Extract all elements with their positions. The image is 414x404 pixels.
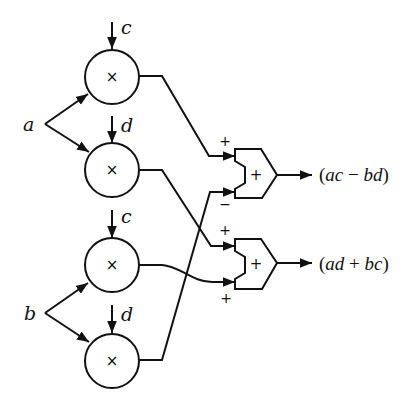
wire-b-to-m4: [45, 313, 89, 342]
multiply-symbol: ×: [106, 352, 119, 370]
wire-b-to-m3: [45, 283, 88, 313]
wire-a-to-m1: [45, 94, 88, 124]
input-sign-plus: +: [219, 222, 231, 238]
multiplier-bc: c ×: [85, 205, 139, 292]
multiplier-ac: c ×: [85, 16, 139, 104]
wire-bc-to-adder2: [139, 265, 235, 282]
side-input-d-label: d: [121, 114, 133, 136]
complex-multiplier-diagram: a b c × d × c × d ×: [0, 0, 414, 404]
wire-bd-to-adder1: [139, 192, 235, 360]
adder-1: + + − (ac − bd): [219, 133, 389, 212]
side-input-c-label: c: [121, 16, 132, 38]
multiplier-ad: d ×: [85, 114, 139, 197]
multiplier-bd: d ×: [85, 303, 139, 388]
output-label-ad-plus-bc: (ad + bc): [319, 253, 389, 275]
multiply-symbol: ×: [106, 161, 119, 179]
input-b: b: [24, 283, 89, 342]
input-b-label: b: [24, 302, 36, 324]
input-sign-plus: +: [220, 290, 232, 306]
output-label-ac-minus-bd: (ac − bd): [319, 164, 389, 186]
adder-2: + + + (ad + bc): [219, 222, 389, 306]
side-input-d-label: d: [121, 303, 133, 325]
add-symbol: +: [250, 255, 263, 273]
wire-a-to-m2: [45, 124, 89, 152]
input-sign-plus: +: [219, 133, 231, 149]
input-sign-minus: −: [219, 196, 231, 212]
input-a-label: a: [23, 113, 34, 135]
multiply-symbol: ×: [106, 256, 119, 274]
input-a: a: [23, 94, 89, 152]
add-symbol: +: [250, 166, 263, 184]
multiply-symbol: ×: [106, 68, 119, 86]
side-input-c-label: c: [121, 205, 132, 227]
